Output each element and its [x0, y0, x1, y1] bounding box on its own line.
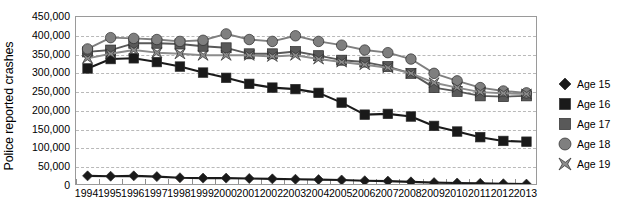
y-axis-tick-label: 300,000 — [32, 66, 70, 78]
x-axis-tick-label: 2009 — [421, 187, 444, 199]
x-axis-tick-label: 2001 — [237, 187, 260, 199]
y-axis-title-text: Police reported crashes — [2, 41, 16, 170]
data-point — [198, 35, 209, 46]
data-point — [360, 176, 370, 185]
legend-item-age-18[interactable]: Age 18 — [556, 134, 629, 154]
data-point — [429, 121, 439, 130]
series-age-15 — [83, 171, 532, 185]
data-point — [429, 178, 439, 185]
y-axis-tick-label: 200,000 — [32, 104, 70, 116]
data-point — [522, 137, 532, 147]
legend-item-age-16[interactable]: Age 16 — [556, 94, 629, 114]
data-point — [221, 73, 231, 83]
data-point — [452, 127, 462, 136]
data-point — [452, 178, 462, 185]
data-point — [290, 174, 300, 184]
x-axis-tick-label: 1997 — [144, 187, 167, 199]
legend-item-label: Age 18 — [577, 138, 610, 150]
data-point — [406, 54, 417, 65]
x-axis-tick-label: 2005 — [329, 187, 352, 199]
x-axis-tick-label: 2003 — [283, 187, 306, 199]
data-point — [313, 36, 324, 47]
data-point — [198, 173, 208, 183]
data-point — [105, 32, 116, 43]
data-point — [360, 45, 371, 56]
data-point — [383, 109, 393, 119]
data-point — [314, 88, 324, 98]
data-point — [521, 179, 531, 185]
data-point — [337, 98, 347, 108]
data-point — [267, 36, 278, 47]
data-point — [383, 176, 393, 185]
data-point — [106, 171, 116, 181]
x-axis-tick-label: 2008 — [398, 187, 421, 199]
x-axis-tick-labels: 1994199519961997199819992000200120022003… — [75, 187, 537, 205]
data-point — [175, 173, 185, 183]
x-marker-icon — [556, 156, 574, 172]
data-point — [268, 83, 278, 93]
x-axis-tick-label: 2013 — [514, 187, 537, 199]
y-axis-tick-label: 400,000 — [32, 29, 70, 41]
data-point — [83, 171, 93, 181]
data-point — [244, 173, 254, 183]
data-point — [429, 68, 440, 79]
legend-item-label: Age 17 — [577, 118, 610, 130]
data-point — [337, 175, 347, 185]
y-axis-tick-label: 0 — [64, 179, 70, 191]
data-point — [406, 112, 416, 122]
data-point — [267, 174, 277, 184]
x-axis-tick-label: 2004 — [306, 187, 329, 199]
legend-item-age-17[interactable]: Age 17 — [556, 114, 629, 134]
x-axis-tick-label: 2011 — [468, 187, 491, 199]
x-axis-tick-label: 1999 — [190, 187, 213, 199]
plot-area — [75, 16, 537, 185]
x-axis-tick-label: 2010 — [444, 187, 467, 199]
legend-item-age-15[interactable]: Age 15 — [556, 74, 629, 94]
y-axis-tick-label: 450,000 — [32, 10, 70, 22]
series-age-16 — [83, 54, 531, 147]
series-layer — [76, 17, 536, 184]
data-point — [291, 84, 301, 94]
data-point — [129, 171, 139, 181]
data-point — [129, 33, 140, 44]
diamond-marker-icon — [556, 76, 574, 92]
data-point — [175, 36, 186, 47]
y-axis-tick-label: 350,000 — [32, 48, 70, 60]
legend-item-age-19[interactable]: Age 19 — [556, 154, 629, 174]
data-point — [499, 136, 509, 146]
data-point — [360, 110, 370, 120]
legend-item-label: Age 19 — [577, 158, 610, 170]
series-age-17 — [83, 38, 532, 101]
chart-figure: Police reported crashes 050,000100,00015… — [0, 0, 629, 212]
data-point — [336, 40, 347, 51]
circle-marker-icon — [556, 136, 574, 152]
data-point — [175, 62, 185, 72]
y-axis-tick-label: 250,000 — [32, 85, 70, 97]
data-point — [152, 172, 162, 182]
data-point — [244, 34, 255, 45]
y-axis-tick-labels: 050,000100,000150,000200,000250,000300,0… — [16, 0, 74, 212]
data-point — [129, 54, 139, 64]
x-axis-tick-label: 2012 — [491, 187, 514, 199]
square-marker-icon — [556, 116, 574, 132]
x-axis-tick-label: 1996 — [121, 187, 144, 199]
x-axis-tick-label: 1995 — [98, 187, 121, 199]
y-axis-tick-label: 150,000 — [32, 123, 70, 135]
data-point — [221, 29, 232, 40]
data-point — [498, 179, 508, 185]
series-age-18 — [82, 29, 531, 98]
data-point — [198, 68, 208, 78]
square-marker-icon — [556, 96, 574, 112]
x-axis-tick-label: 2000 — [213, 187, 236, 199]
data-point — [82, 44, 93, 55]
data-point — [290, 31, 301, 42]
y-axis-tick-label: 50,000 — [38, 160, 70, 172]
x-axis-tick-label: 2002 — [260, 187, 283, 199]
legend-item-label: Age 15 — [577, 78, 610, 90]
data-point — [476, 132, 486, 142]
data-point — [245, 79, 255, 89]
x-axis-tick-label: 1994 — [75, 187, 98, 199]
data-point — [383, 47, 394, 58]
data-point — [152, 57, 162, 67]
data-point — [221, 173, 231, 183]
